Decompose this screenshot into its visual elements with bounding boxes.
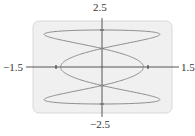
- x-max-label: 1.5: [181, 62, 195, 73]
- y-max-label: 2.5: [93, 2, 107, 13]
- chart-canvas: [0, 0, 195, 136]
- x-min-label: −1.5: [3, 62, 23, 73]
- y-min-label: −2.5: [90, 119, 110, 130]
